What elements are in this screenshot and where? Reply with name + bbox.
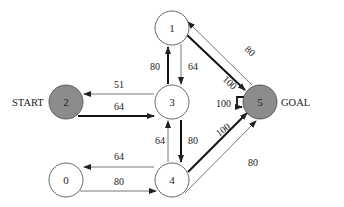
weight-1-to-5: 100 [221, 73, 239, 91]
weight-4-to-0: 64 [114, 151, 124, 162]
weight-3-to-4: 80 [188, 135, 198, 146]
node-1: 1 [155, 11, 189, 45]
node-2-label: 2 [63, 96, 69, 108]
weight-0-to-4: 80 [114, 176, 124, 187]
node-5-goal: 5 [243, 85, 277, 119]
weight-1-to-3: 64 [188, 61, 198, 72]
weight-5-to-1: 80 [243, 43, 258, 58]
weight-3-to-2: 51 [114, 79, 124, 90]
node-4-label: 4 [169, 174, 175, 186]
node-2-start: 2 [49, 85, 83, 119]
node-1-label: 1 [169, 22, 175, 34]
weight-4-to-5-thin: 80 [248, 157, 258, 168]
node-0: 0 [49, 163, 83, 197]
weight-2-to-3: 64 [114, 101, 124, 112]
node-4: 4 [155, 163, 189, 197]
nodes: 0 1 2 3 4 5 [49, 11, 277, 197]
node-5-label: 5 [257, 96, 263, 108]
weight-5-self-loop: 100 [216, 98, 231, 109]
start-label: START [12, 97, 44, 108]
weight-4-to-5-bold: 100 [214, 121, 233, 139]
weight-4-to-3: 64 [155, 135, 165, 146]
node-0-label: 0 [63, 174, 69, 186]
weight-3-to-1: 80 [150, 61, 160, 72]
node-3: 3 [155, 85, 189, 119]
node-3-label: 3 [169, 96, 175, 108]
state-graph-diagram: 51 64 80 64 100 80 100 80 64 64 80 100 8… [0, 0, 344, 207]
edge-5-to-1 [188, 22, 252, 85]
goal-label: GOAL [281, 97, 310, 108]
